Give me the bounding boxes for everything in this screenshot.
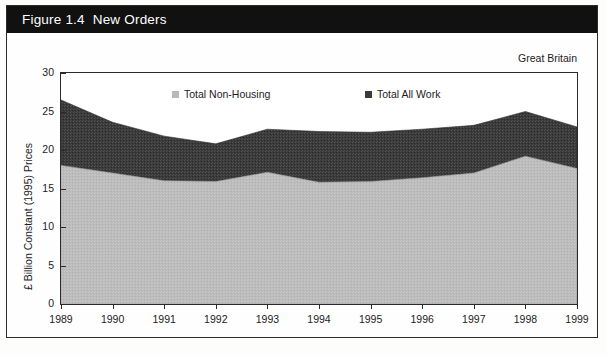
y-tick-label: 25: [28, 105, 54, 117]
x-tick-mark: [319, 304, 320, 309]
x-tick-mark: [113, 304, 114, 309]
legend-item-total-all-work: Total All Work: [365, 88, 440, 100]
legend-swatch-icon: [365, 91, 372, 98]
x-tick-label: 1991: [144, 313, 184, 325]
y-tick-label: 0: [28, 297, 54, 309]
x-tick-label: 1998: [505, 313, 545, 325]
y-tick-mark: [61, 112, 66, 113]
legend-label: Total All Work: [377, 88, 440, 100]
x-tick-mark: [61, 304, 62, 309]
y-tick-mark: [61, 73, 66, 74]
figure-container: Figure 1.4 New Orders Great Britain: [0, 0, 607, 356]
y-axis-title: £ Billion Constant (1995) Prices: [22, 143, 34, 290]
legend-label: Total Non-Housing: [184, 88, 270, 100]
x-tick-label: 1993: [247, 313, 287, 325]
x-tick-mark: [474, 304, 475, 309]
x-tick-mark: [525, 304, 526, 309]
x-tick-mark: [371, 304, 372, 309]
x-tick-mark: [422, 304, 423, 309]
x-tick-mark: [577, 304, 578, 309]
plot-clip: [61, 73, 577, 304]
y-tick-mark: [61, 189, 66, 190]
legend-swatch-icon: [172, 91, 179, 98]
plot-area: 051015202530 198919901991199219931994199…: [60, 72, 578, 305]
x-tick-label: 1990: [93, 313, 133, 325]
x-tick-label: 1992: [196, 313, 236, 325]
x-tick-label: 1994: [299, 313, 339, 325]
region-label: Great Britain: [518, 52, 577, 64]
chart-legend: Total Non-Housing Total All Work: [60, 88, 578, 104]
x-tick-label: 1996: [402, 313, 442, 325]
x-tick-mark: [267, 304, 268, 309]
x-tick-mark: [164, 304, 165, 309]
x-tick-label: 1999: [557, 313, 597, 325]
x-tick-label: 1997: [454, 313, 494, 325]
y-tick-mark: [61, 266, 66, 267]
x-tick-mark: [216, 304, 217, 309]
page-title: Figure 1.4 New Orders: [22, 12, 167, 27]
y-tick-label: 30: [28, 66, 54, 78]
legend-item-total-non-housing: Total Non-Housing: [172, 88, 270, 100]
x-tick-label: 1995: [351, 313, 391, 325]
y-tick-mark: [61, 227, 66, 228]
y-tick-mark: [61, 150, 66, 151]
x-tick-label: 1989: [41, 313, 81, 325]
area-chart-svg: [61, 73, 577, 304]
